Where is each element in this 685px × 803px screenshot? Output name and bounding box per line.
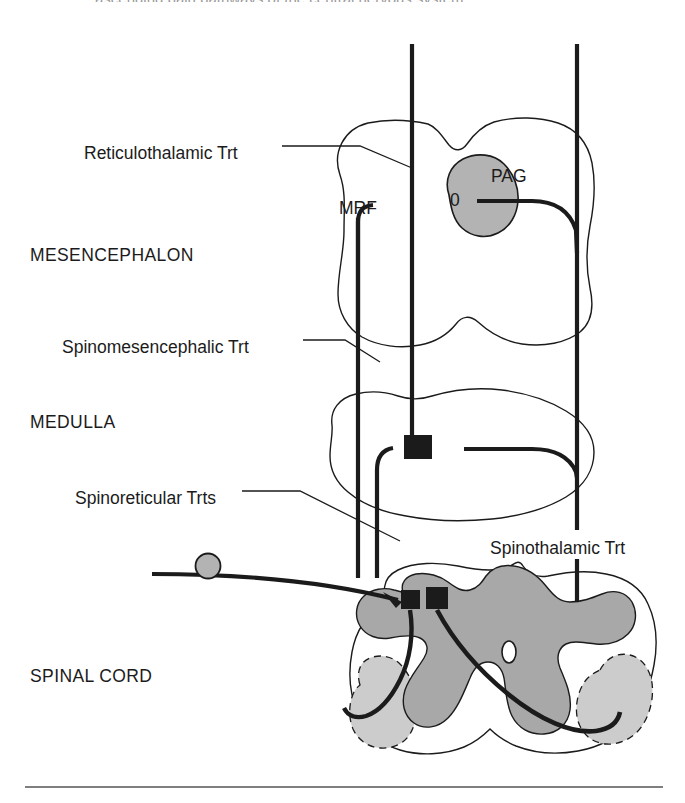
primary-afferent-fiber bbox=[152, 574, 398, 600]
leader-spinomesencephalic bbox=[303, 340, 380, 362]
region-label-spinal-cord: SPINAL CORD bbox=[30, 666, 152, 687]
tract-label-spinomesencephalic: Spinomesencephalic Trt bbox=[62, 337, 249, 358]
medulla-synapse-square bbox=[404, 435, 432, 459]
spinal-synapse-square-left bbox=[401, 590, 420, 609]
structure-label-cerebral-aqueduct: 0 bbox=[450, 190, 460, 211]
medulla-outline bbox=[330, 389, 594, 521]
region-label-mesencephalon: MESENCEPHALON bbox=[30, 245, 194, 266]
structure-label-pag: PAG bbox=[491, 166, 527, 187]
medulla-section bbox=[330, 389, 594, 521]
spinal-synapse-square-right bbox=[426, 587, 448, 609]
tract-label-reticulothalamic: Reticulothalamic Trt bbox=[84, 143, 238, 164]
region-label-medulla: MEDULLA bbox=[30, 412, 115, 433]
dorsal-root-ganglion bbox=[196, 554, 221, 579]
tract-label-spinothalamic: Spinothalamic Trt bbox=[487, 538, 628, 559]
central-canal bbox=[502, 641, 516, 663]
tract-label-spinoreticular: Spinoreticular Trts bbox=[75, 488, 216, 509]
figure-root: ascending pain pathways of the central n… bbox=[0, 0, 685, 803]
structure-label-mrf: MRF bbox=[339, 198, 377, 219]
